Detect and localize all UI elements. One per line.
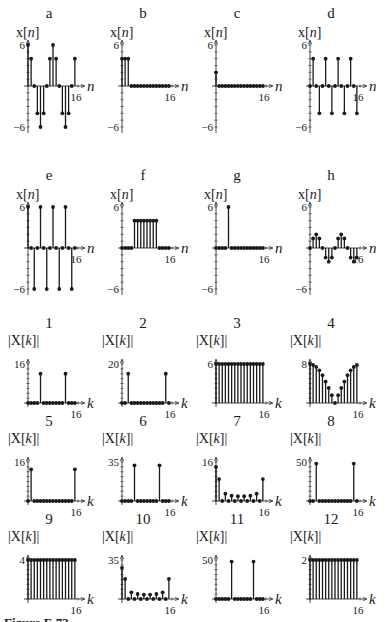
y-tick-max: 6 [208, 39, 214, 51]
x-axis-label: k [181, 591, 188, 607]
y-tick-max: 6 [302, 39, 308, 51]
y-tick-min: −6 [107, 121, 119, 133]
panel-title: 5 [45, 413, 53, 429]
x-tick-max: 16 [259, 91, 271, 103]
stem-plot-h: hx[n]6−6n16 [284, 162, 378, 326]
stem-plot-4: 4|X[k]|8k16 [284, 312, 378, 414]
panel-title: 2 [139, 315, 147, 331]
y-axis-label: x[n] [298, 25, 321, 40]
x-axis-label: n [87, 78, 95, 94]
y-axis-label: x[n] [204, 25, 227, 40]
y-axis-label: x[n] [16, 187, 39, 202]
y-axis-label: x[n] [110, 187, 133, 202]
panel-title: g [233, 167, 241, 183]
y-axis-label: |X[k]| [196, 431, 227, 446]
y-tick-max: 50 [202, 554, 214, 566]
y-tick-min: −6 [13, 121, 25, 133]
y-tick-min: −6 [13, 283, 25, 295]
y-tick-max: 35 [108, 456, 120, 468]
y-tick-max: 6 [20, 39, 26, 51]
x-axis-label: k [275, 591, 282, 607]
y-axis-label: |X[k]| [8, 333, 39, 348]
x-axis-label: n [369, 240, 377, 256]
y-axis-label: x[n] [204, 187, 227, 202]
y-axis-label: |X[k]| [102, 333, 133, 348]
x-axis-label: k [87, 395, 94, 411]
stem-plot-b: bx[n]6−6n16 [96, 0, 190, 164]
x-axis-label: k [369, 395, 376, 411]
y-axis-label: x[n] [16, 25, 39, 40]
x-axis-label: n [87, 240, 95, 256]
x-axis-label: k [275, 493, 282, 509]
x-tick-max: 16 [165, 604, 177, 616]
y-tick-max: 35 [108, 554, 120, 566]
panel-title: e [46, 167, 53, 183]
panel-title: c [234, 5, 241, 21]
panel-title: 8 [327, 413, 335, 429]
y-axis-label: |X[k]| [8, 529, 39, 544]
x-axis-label: k [181, 395, 188, 411]
panel-title: 12 [324, 511, 339, 527]
panel-title: h [327, 167, 335, 183]
stem-plot-g: gx[n]6−6n16 [190, 162, 284, 326]
panel-title: d [327, 5, 335, 21]
x-axis-label: k [275, 395, 282, 411]
y-tick-max: 50 [296, 456, 308, 468]
stem-plot-e: ex[n]6−6n16 [2, 162, 96, 326]
y-tick-max: 6 [208, 358, 214, 370]
y-axis-label: |X[k]| [196, 529, 227, 544]
y-tick-max: 6 [302, 201, 308, 213]
stem-plot-3: 3|X[k]|6k16 [190, 312, 284, 414]
y-axis-label: |X[k]| [102, 431, 133, 446]
y-tick-max: 8 [302, 358, 308, 370]
stem-plot-1: 1|X[k]|16k16 [2, 312, 96, 414]
y-axis-label: x[n] [110, 25, 133, 40]
stem-plot-5: 5|X[k]|16k16 [2, 410, 96, 512]
x-axis-label: n [369, 78, 377, 94]
stem-plot-12: 12|X[k]|2k16 [284, 508, 378, 610]
panel-title: 3 [233, 315, 241, 331]
stem-plot-c: cx[n]6−6n16 [190, 0, 284, 164]
stem-plot-f: fx[n]6−6n16 [96, 162, 190, 326]
y-tick-min: −6 [201, 121, 213, 133]
x-tick-max: 16 [165, 253, 177, 265]
x-axis-label: k [369, 591, 376, 607]
stem-plot-10: 10|X[k]|35k16 [96, 508, 190, 610]
stem-plot-8: 8|X[k]|50k16 [284, 410, 378, 512]
figure-caption: Figure E.73 [4, 612, 69, 622]
stem-plot-11: 11|X[k]|50k16 [190, 508, 284, 610]
x-tick-max: 16 [259, 604, 271, 616]
x-tick-max: 16 [71, 604, 83, 616]
panel-title: 7 [233, 413, 241, 429]
x-tick-max: 16 [353, 604, 365, 616]
y-tick-max: 20 [108, 358, 120, 370]
panel-title: 11 [230, 511, 244, 527]
y-tick-max: 16 [14, 456, 26, 468]
panel-title: 1 [45, 315, 53, 331]
panel-title: b [139, 5, 147, 21]
x-tick-max: 16 [71, 91, 83, 103]
panel-title: 10 [136, 511, 151, 527]
x-tick-max: 16 [165, 91, 177, 103]
y-tick-max: 6 [114, 39, 120, 51]
x-axis-label: k [369, 493, 376, 509]
y-tick-max: 4 [20, 554, 26, 566]
y-axis-label: x[n] [298, 187, 321, 202]
y-tick-min: −6 [201, 283, 213, 295]
x-tick-max: 16 [259, 253, 271, 265]
y-axis-label: |X[k]| [196, 333, 227, 348]
panel-title: 6 [139, 413, 147, 429]
stem-plot-d: dx[n]6−6n16 [284, 0, 378, 164]
y-tick-max: 6 [20, 201, 26, 213]
x-axis-label: k [87, 493, 94, 509]
stem-plot-2: 2|X[k]|20k16 [96, 312, 190, 414]
y-axis-label: |X[k]| [290, 431, 321, 446]
y-axis-label: |X[k]| [290, 529, 321, 544]
panel-title: 9 [45, 511, 53, 527]
y-tick-max: 2 [302, 554, 308, 566]
x-axis-label: n [275, 78, 283, 94]
y-tick-max: 6 [208, 201, 214, 213]
panel-title: 4 [327, 315, 335, 331]
y-tick-min: −6 [107, 283, 119, 295]
stem-plot-a: ax[n]6−6n16 [2, 0, 96, 164]
